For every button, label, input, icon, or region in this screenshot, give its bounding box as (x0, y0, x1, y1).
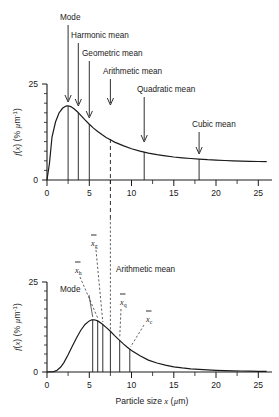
top-ytick-25: 25 (28, 79, 38, 89)
top-xtick-15: 15 (169, 188, 179, 198)
figure-canvas: 25 0 0 5 10 15 20 25 (0, 0, 279, 417)
top-annotation-geometric: Geometric mean (82, 49, 143, 118)
top-xtick-20: 20 (211, 188, 221, 198)
bottom-xtick-20: 20 (211, 380, 221, 390)
top-annotation-quadratic: Quadratic mean (137, 85, 196, 142)
bottom-xtick-15: 15 (169, 380, 179, 390)
bottom-chart: 25 0 0 5 10 15 20 25 f(x) ( (12, 218, 272, 406)
top-label-arithmetic: Arithmetic mean (103, 67, 163, 76)
bottom-ytick-0: 0 (33, 367, 38, 377)
bottom-axis-lines (47, 282, 272, 372)
bottom-label-xg: xg (90, 239, 98, 249)
top-label-mode: Mode (60, 13, 81, 22)
top-x-ticks (47, 180, 258, 186)
bottom-label-xc: xc (145, 315, 153, 325)
bottom-label-mode: Mode (60, 285, 81, 294)
bottom-annotation-xc: xc (131, 311, 153, 347)
top-label-cubic: Cubic mean (192, 120, 236, 129)
top-ylabel: f(x) (% µm-1) (12, 108, 22, 156)
bottom-xtick-0: 0 (45, 380, 50, 390)
top-annotation-mode: Mode (60, 13, 81, 102)
top-label-geometric: Geometric mean (82, 49, 143, 58)
bottom-annotation-arithmetic: Arithmetic mean (110, 218, 175, 330)
bottom-annotation-xg: xg (90, 235, 103, 322)
bottom-label-xh: xh (74, 266, 82, 276)
bottom-label-xq: xq (119, 298, 127, 308)
bottom-ylabel: f(x) (% µm-1) (12, 303, 22, 351)
bottom-label-arithmetic: Arithmetic mean (116, 265, 176, 274)
top-label-quadratic: Quadratic mean (137, 85, 196, 94)
top-annotation-cubic: Cubic mean (192, 120, 236, 154)
bottom-xtick-25: 25 (254, 380, 264, 390)
bottom-curve (47, 320, 267, 372)
top-ylabel-group: f(x) (% µm-1) (12, 108, 22, 156)
bottom-annotation-xq: xq (119, 294, 127, 338)
particle-size-distribution-figure: 25 0 0 5 10 15 20 25 (0, 0, 279, 417)
top-label-harmonic: Harmonic mean (71, 31, 129, 40)
bottom-y-ticks (42, 282, 47, 372)
bottom-x-ticks (47, 372, 258, 378)
top-ytick-0: 0 (33, 175, 38, 185)
top-xtick-25: 25 (254, 188, 264, 198)
top-axis-lines (47, 84, 272, 180)
top-xtick-0: 0 (45, 188, 50, 198)
bottom-ylabel-group: f(x) (% µm-1) (12, 303, 22, 351)
bottom-xtick-5: 5 (87, 380, 92, 390)
top-chart: 25 0 0 5 10 15 20 25 (12, 13, 272, 198)
bottom-ytick-25: 25 (28, 277, 38, 287)
top-xtick-5: 5 (87, 188, 92, 198)
top-y-ticks (42, 84, 47, 180)
bottom-annotation-mode: Mode (60, 285, 93, 317)
bottom-xlabel: Particle size x (µm) (116, 396, 189, 406)
top-xtick-10: 10 (127, 188, 137, 198)
bottom-xtick-10: 10 (127, 380, 137, 390)
top-curve (47, 106, 267, 180)
